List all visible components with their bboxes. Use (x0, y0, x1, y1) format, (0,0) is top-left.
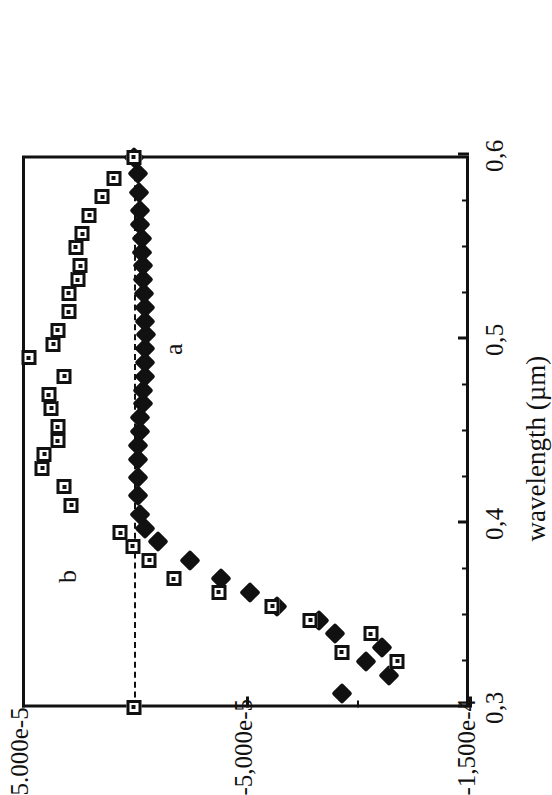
data-point-b (125, 539, 140, 554)
data-point-b (57, 479, 72, 494)
x-tick-minor (462, 429, 469, 431)
data-point-b (142, 552, 157, 567)
x-tick-minor (462, 291, 469, 293)
data-point-b (44, 401, 59, 416)
x-tick-major (458, 520, 469, 523)
x-tick-minor (462, 613, 469, 615)
data-point-b (64, 497, 79, 512)
data-point-b (75, 226, 90, 241)
x-axis-title: wavelength (µm) (521, 355, 552, 541)
data-point-b (50, 419, 65, 434)
data-point-b (95, 189, 110, 204)
data-point-b (61, 304, 76, 319)
data-point-b (363, 626, 378, 641)
data-point-b (68, 240, 83, 255)
series-label-b: b (53, 570, 83, 583)
data-point-b (334, 644, 349, 659)
data-point-b (211, 585, 226, 600)
data-point-b (41, 387, 56, 402)
data-point-b (73, 258, 88, 273)
x-tick-minor (462, 659, 469, 661)
x-tick-major (458, 336, 469, 339)
data-point-b (35, 460, 50, 475)
x-tick-label: 0,5 (481, 304, 509, 374)
x-tick-minor (462, 245, 469, 247)
x-tick-label: 0,3 (481, 672, 509, 742)
data-point-b (37, 447, 52, 462)
y-tick-major (22, 696, 25, 707)
data-point-b (126, 149, 141, 164)
x-tick-label: 0,6 (481, 120, 509, 190)
y-tick-label: -1,500e-4 (453, 723, 481, 795)
y-tick-minor (357, 700, 359, 707)
data-point-b (61, 286, 76, 301)
x-tick-label: 0,4 (481, 488, 509, 558)
data-point-b (70, 272, 85, 287)
y-tick-label: -5,000e-5 (230, 723, 258, 795)
data-point-b (113, 525, 128, 540)
data-point-b (57, 368, 72, 383)
x-tick-minor (462, 199, 469, 201)
y-tick-label: 5.000e-5 (6, 723, 34, 795)
data-point-b (303, 612, 318, 627)
data-point-b (46, 336, 61, 351)
data-point-b (106, 171, 121, 186)
data-point-b (126, 700, 141, 715)
data-point-b (50, 433, 65, 448)
data-point-b (166, 571, 181, 586)
x-tick-minor (462, 567, 469, 569)
series-label-a: a (159, 343, 189, 355)
x-tick-minor (462, 383, 469, 385)
data-point-b (265, 598, 280, 613)
data-point-b (21, 350, 36, 365)
data-point-b (390, 654, 405, 669)
data-point-b (50, 322, 65, 337)
x-tick-major (458, 152, 469, 155)
x-tick-minor (462, 475, 469, 477)
data-point-b (82, 207, 97, 222)
